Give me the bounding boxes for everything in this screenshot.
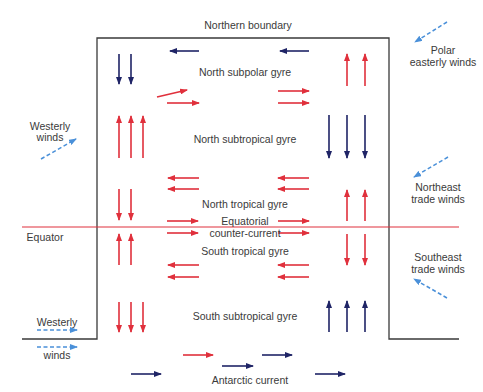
polar-easterly-label-2: easterly winds <box>400 56 483 68</box>
west-boundary-currents <box>119 54 143 332</box>
northeast-trade-label-2: trade winds <box>400 193 476 205</box>
westerly-north-label-2: winds <box>20 131 80 143</box>
zonal-currents <box>131 51 345 374</box>
ocean-gyre-diagram: Northern boundary North subpolar gyre No… <box>0 0 483 392</box>
southeast-trade-label-1: Southeast <box>400 251 476 263</box>
equatorial-label: Equatorial <box>200 215 290 227</box>
counter-current-label: counter-current <box>195 227 295 239</box>
basin-boundary <box>22 38 459 339</box>
northeast-trade-label-1: Northeast <box>400 181 476 193</box>
north-tropical-gyre-label: North tropical gyre <box>190 198 300 210</box>
westerly-south-label-1: Westerly <box>27 316 87 328</box>
north-subpolar-gyre-label: North subpolar gyre <box>185 66 305 78</box>
westerly-south-label-2: winds <box>27 349 87 361</box>
antarctic-current-label: Antarctic current <box>200 374 300 386</box>
east-boundary-currents <box>329 54 365 332</box>
south-subtropical-gyre-label: South subtropical gyre <box>180 310 310 322</box>
south-tropical-gyre-label: South tropical gyre <box>190 245 300 257</box>
southeast-trade-label-2: trade winds <box>400 263 476 275</box>
equator-label: Equator <box>24 231 66 243</box>
north-subtropical-gyre-label: North subtropical gyre <box>180 133 310 145</box>
northern-boundary-label: Northern boundary <box>188 19 308 31</box>
polar-easterly-label-1: Polar <box>408 44 478 56</box>
